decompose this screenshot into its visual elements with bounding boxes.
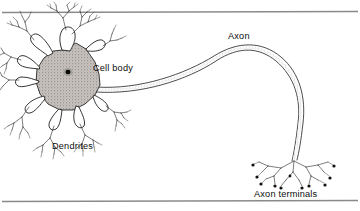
label-axon-terminals: Axon terminals (254, 189, 318, 199)
top-rule (2, 12, 358, 13)
label-dendrites: Dendrites (52, 141, 93, 151)
nucleus (66, 70, 71, 74)
bottom-rule (2, 201, 358, 202)
neuron-illustration: Cell body Dendrites Axon Axon terminals (0, 0, 360, 211)
label-axon: Axon (228, 31, 250, 41)
neuron-diagram-figure: Cell body Dendrites Axon Axon terminals (0, 0, 360, 211)
axon-terminal-tree (251, 161, 335, 190)
label-cell-body: Cell body (93, 63, 133, 73)
